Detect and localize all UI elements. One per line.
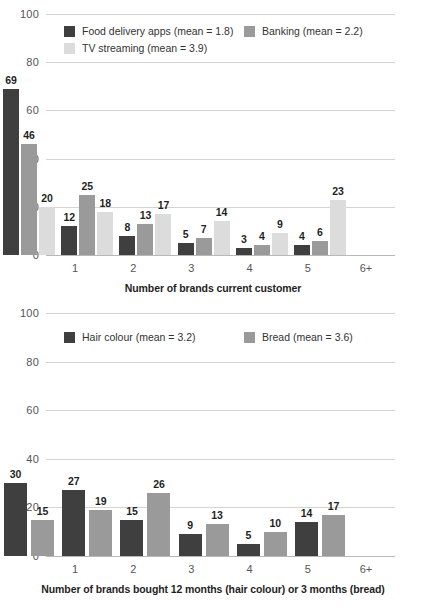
- bar[interactable]: 15: [120, 520, 143, 556]
- bar-group: 2719: [58, 313, 116, 556]
- x-axis-tick-label: 5: [279, 563, 337, 575]
- bar-group: 1526: [116, 313, 174, 556]
- x-axis-tick-labels: 123456+: [46, 563, 395, 575]
- bar-value-label: 30: [10, 468, 21, 480]
- bar-value-label: 15: [126, 505, 137, 517]
- legend-label: Bread (mean = 3.6): [262, 332, 353, 343]
- legend-item[interactable]: Hair colour (mean = 3.2): [64, 332, 196, 343]
- axis-baseline: [46, 556, 395, 557]
- x-axis-tick-label: 6+: [337, 563, 395, 575]
- bar-group: 1417: [291, 313, 349, 556]
- chart-bottom-panel: 0204060801003015271915269135101417123456…: [0, 0, 426, 609]
- bar[interactable]: 27: [62, 490, 85, 556]
- legend-item[interactable]: Bread (mean = 3.6): [244, 332, 353, 343]
- x-axis-tick-label: 3: [162, 563, 220, 575]
- bar-value-label: 17: [328, 500, 339, 512]
- bar[interactable]: 9: [179, 534, 202, 556]
- bar[interactable]: 14: [295, 522, 318, 556]
- bar-group: 3015: [0, 313, 58, 556]
- legend-label: Hair colour (mean = 3.2): [82, 332, 196, 343]
- bar-value-label: 27: [68, 475, 79, 487]
- bar[interactable]: 17: [322, 515, 345, 556]
- bar-value-label: 15: [37, 505, 48, 517]
- bar-series-container: 3015271915269135101417: [0, 313, 349, 556]
- bar-group: 913: [175, 313, 233, 556]
- bar[interactable]: 10: [264, 532, 287, 556]
- bar-value-label: 26: [153, 478, 164, 490]
- bar-value-label: 14: [301, 507, 312, 519]
- bar-value-label: 9: [187, 519, 193, 531]
- bar[interactable]: 5: [237, 544, 260, 556]
- x-axis-tick-label: 2: [104, 563, 162, 575]
- bar-value-label: 10: [270, 517, 281, 529]
- bar-value-label: 13: [211, 509, 222, 521]
- bar-value-label: 5: [245, 529, 251, 541]
- bar[interactable]: 15: [31, 520, 54, 556]
- bar[interactable]: 30: [4, 483, 27, 556]
- bar-value-label: 19: [95, 495, 106, 507]
- bar-group: 510: [233, 313, 291, 556]
- bar[interactable]: 13: [206, 524, 229, 556]
- x-axis-tick-label: 1: [46, 563, 104, 575]
- legend-row: Hair colour (mean = 3.2)Bread (mean = 3.…: [46, 332, 395, 349]
- x-axis-title: Number of brands bought 12 months (hair …: [0, 583, 426, 595]
- chart-legend: Hair colour (mean = 3.2)Bread (mean = 3.…: [46, 332, 395, 349]
- bar[interactable]: 19: [89, 510, 112, 556]
- legend-swatch-icon: [244, 332, 255, 343]
- legend-swatch-icon: [64, 332, 75, 343]
- bar[interactable]: 26: [147, 493, 170, 556]
- x-axis-tick-label: 4: [221, 563, 279, 575]
